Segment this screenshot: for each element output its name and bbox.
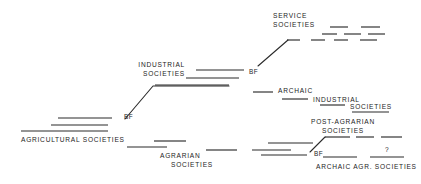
societal-evolution-diagram: AGRICULTURAL SOCIETIES BF INDUSTRIAL SOC… <box>0 0 421 184</box>
label-archaic: ARCHAIC <box>278 87 313 96</box>
label-agricultural-societies: AGRICULTURAL SOCIETIES <box>21 136 125 145</box>
label-bf-2: BF <box>249 68 258 77</box>
label-post-agrarian-line2: SOCIETIES <box>322 127 364 136</box>
bf-1-connector <box>125 86 229 119</box>
label-agrarian-societies-line2: SOCIETIES <box>171 161 213 170</box>
label-service-societies: SERVICE SOCIETIES <box>273 11 315 29</box>
label-industrial-societies-line1: INDUSTRIAL <box>133 60 185 69</box>
label-post-agrarian-line1: POST-AGRARIAN <box>311 118 375 127</box>
bf-2-connector <box>258 40 288 66</box>
label-bf-1: BF <box>124 113 133 122</box>
label-societies-2: SOCIETIES <box>350 103 392 112</box>
label-archaic-agr-societies: ARCHAIC AGR. SOCIETIES <box>316 163 417 172</box>
label-bf-3: BF <box>314 150 323 159</box>
label-service-societies-line1: SERVICE <box>273 11 315 20</box>
agrarian-societies-segments <box>127 141 313 155</box>
label-industrial-societies-line2: SOCIETIES <box>133 69 185 78</box>
agricultural-societies-segments <box>21 118 112 131</box>
label-question-mark: ? <box>385 146 389 155</box>
diagram-canvas <box>0 0 421 184</box>
label-service-societies-line2: SOCIETIES <box>273 20 315 29</box>
label-industrial-societies: INDUSTRIAL SOCIETIES <box>133 60 185 78</box>
label-agrarian-societies-line1: AGRARIAN <box>160 152 200 161</box>
